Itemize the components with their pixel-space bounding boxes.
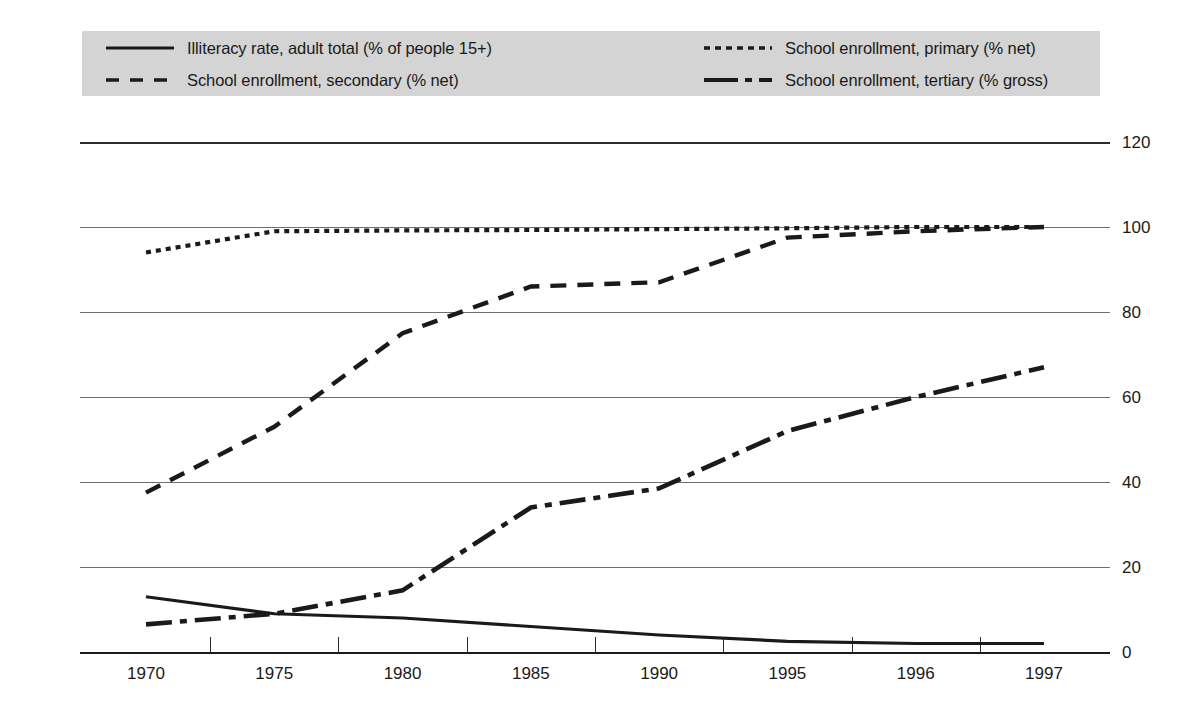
y-tick-label-right-80: 80 (1122, 304, 1141, 321)
x-tick-label-1985: 1985 (512, 664, 550, 684)
dash-dot-line-swatch (702, 73, 774, 87)
legend-label-primary: School enrollment, primary (% net) (785, 39, 1036, 58)
y-tick-label-right-20: 20 (1122, 559, 1141, 576)
dashed-line-swatch (104, 73, 176, 87)
x-tick-label-1997: 1997 (1025, 664, 1063, 684)
legend-label-secondary: School enrollment, secondary (% net) (187, 71, 459, 90)
legend-row-2: School enrollment, secondary (% net) Sch… (82, 64, 1100, 96)
x-tick-label-1996: 1996 (897, 664, 935, 684)
legend-label-illiteracy: Illiteracy rate, adult total (% of peopl… (187, 39, 492, 58)
legend-entry-illiteracy: Illiteracy rate, adult total (% of peopl… (104, 32, 492, 64)
x-tick-label-1995: 1995 (769, 664, 807, 684)
series-line-0 (146, 597, 1044, 644)
y-tick-label-right-40: 40 (1122, 474, 1141, 491)
x-tick-label-1990: 1990 (640, 664, 678, 684)
legend-entry-secondary: School enrollment, secondary (% net) (104, 64, 459, 96)
x-tick-label-1975: 1975 (255, 664, 293, 684)
legend-entry-tertiary: School enrollment, tertiary (% gross) (702, 64, 1048, 96)
chart-legend: Illiteracy rate, adult total (% of peopl… (82, 31, 1100, 96)
legend-row-1: Illiteracy rate, adult total (% of peopl… (82, 32, 1100, 64)
y-tick-label-right-120: 120 (1122, 134, 1150, 151)
series-lines (80, 142, 1110, 652)
legend-label-tertiary: School enrollment, tertiary (% gross) (785, 71, 1048, 90)
y-tick-label-right-100: 100 (1122, 219, 1150, 236)
x-tick-label-1970: 1970 (127, 664, 165, 684)
chart-plot-area: 120100806040200 120100806040200 19701975… (80, 142, 1110, 652)
gridline-0 (80, 652, 1110, 654)
y-tick-label-right-60: 60 (1122, 389, 1141, 406)
dotted-line-swatch (702, 41, 774, 55)
y-tick-label-right-0: 0 (1122, 644, 1131, 661)
solid-line-swatch (104, 41, 176, 55)
x-tick-label-1980: 1980 (384, 664, 422, 684)
series-line-3 (146, 367, 1044, 624)
series-line-2 (146, 227, 1044, 493)
legend-entry-primary: School enrollment, primary (% net) (702, 32, 1036, 64)
